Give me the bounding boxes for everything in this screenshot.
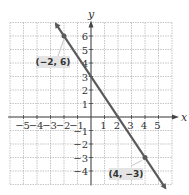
y-tick-label: −2: [73, 139, 88, 150]
axes: [8, 21, 179, 186]
y-tick-label: 2: [82, 85, 88, 96]
y-tick-label: 6: [82, 31, 88, 42]
y-tick-label: −1: [73, 126, 88, 137]
x-tick-label: 2: [114, 120, 120, 131]
point-annotations: (−2, 6)(4, −3): [36, 39, 144, 180]
y-axis-label: y: [87, 8, 95, 21]
x-axis-arrow-icon: [172, 115, 179, 120]
x-tick-label: 1: [100, 120, 106, 131]
y-tick-label: 5: [82, 45, 88, 56]
annotation-label: (−2, 6): [36, 57, 71, 67]
annotation-leader: [58, 39, 64, 56]
coordinate-plane: −5−4−3−2−112345−4−3−2−1123456 (−2, 6)(4,…: [0, 0, 189, 195]
y-axis-arrow-icon: [89, 21, 94, 28]
y-tick-label: 3: [82, 72, 88, 83]
annotation-leader: [131, 161, 142, 167]
x-tick-label: 5: [154, 120, 160, 131]
x-axis-label: x: [181, 111, 188, 124]
y-tick-label: −3: [73, 153, 88, 164]
data-point: [143, 155, 148, 160]
annotation-label: (4, −3): [109, 169, 144, 179]
data-line: [55, 22, 167, 189]
y-tick-label: −4: [73, 166, 88, 177]
x-tick-label: 3: [127, 120, 133, 131]
data-point: [62, 34, 67, 39]
x-tick-label: 4: [141, 120, 147, 131]
y-tick-label: 1: [82, 99, 88, 110]
